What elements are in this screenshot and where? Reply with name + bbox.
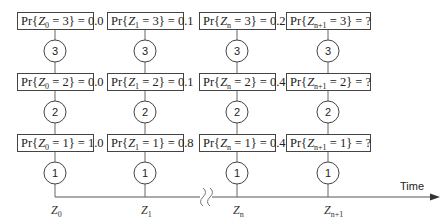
- column-n: Pr{Zn = 3} = 0.23Pr{Zn = 2} = 0.42Pr{Zn …: [200, 13, 287, 219]
- probability-label: Pr{Z1 = 3} = 0.1: [111, 14, 194, 30]
- state-label: 2: [52, 106, 58, 118]
- axis-break-icon: [201, 188, 206, 206]
- probability-label: Pr{Z0 = 1} = 1.0: [21, 136, 104, 152]
- time-step-label: Zn: [233, 203, 244, 219]
- state-label: 3: [142, 45, 148, 57]
- state-label: 2: [325, 106, 331, 118]
- state-label: 2: [142, 106, 148, 118]
- axis-break-icon-2: [208, 188, 213, 206]
- probability-label: Pr{Z1 = 2} = 0.1: [111, 75, 194, 91]
- column-0: Pr{Z0 = 3} = 0.03Pr{Z0 = 2} = 0.02Pr{Z0 …: [18, 13, 104, 219]
- probability-label: Pr{Z0 = 3} = 0.0: [21, 14, 104, 30]
- probability-label: Pr{Z1 = 1} = 0.8: [111, 136, 194, 152]
- state-label: 1: [234, 167, 240, 179]
- probability-label: Pr{Zn = 1} = 0.4: [203, 136, 286, 152]
- state-label: 1: [52, 167, 58, 179]
- state-label: 3: [234, 45, 240, 57]
- probability-label: Pr{Zn+1 = 2} = ?: [290, 75, 371, 91]
- markov-chain-diagram: Time Pr{Z0 = 3} = 0.03Pr{Z0 = 2} = 0.02P…: [0, 0, 440, 224]
- time-label: Time: [400, 180, 424, 192]
- state-label: 3: [325, 45, 331, 57]
- probability-label: Pr{Zn+1 = 3} = ?: [290, 14, 371, 30]
- time-arrow-icon: [430, 194, 440, 201]
- column-1: Pr{Z1 = 3} = 0.13Pr{Z1 = 2} = 0.12Pr{Z1 …: [108, 13, 194, 219]
- state-label: 2: [234, 106, 240, 118]
- state-label: 1: [142, 167, 148, 179]
- time-step-label: Z0: [51, 203, 62, 219]
- state-label: 1: [325, 167, 331, 179]
- time-step-label: Zn+1: [324, 203, 343, 219]
- time-step-label: Z1: [141, 203, 152, 219]
- column-n+1: Pr{Zn+1 = 3} = ?3Pr{Zn+1 = 2} = ?2Pr{Zn+…: [287, 13, 372, 219]
- probability-label: Pr{Zn = 3} = 0.2: [203, 14, 286, 30]
- probability-label: Pr{Z0 = 2} = 0.0: [21, 75, 104, 91]
- probability-label: Pr{Zn+1 = 1} = ?: [290, 136, 371, 152]
- state-label: 3: [52, 45, 58, 57]
- probability-label: Pr{Zn = 2} = 0.4: [203, 75, 286, 91]
